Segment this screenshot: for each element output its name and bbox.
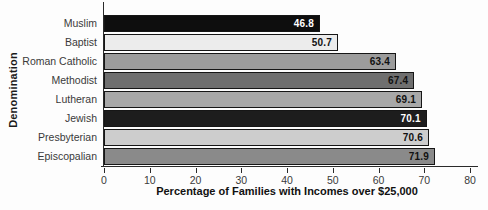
bar-row: Roman Catholic63.4 <box>104 53 470 70</box>
category-label: Roman Catholic <box>22 53 97 70</box>
bar-row: Presbyterian70.6 <box>104 129 470 146</box>
category-label: Jewish <box>65 110 97 127</box>
bar-value-label: 70.1 <box>400 113 425 124</box>
x-tick-mark <box>196 168 197 173</box>
y-axis-title: Denomination <box>7 52 19 128</box>
category-label: Lutheran <box>56 91 97 108</box>
bar: 46.8 <box>104 15 320 32</box>
x-tick-mark <box>287 168 288 173</box>
bar-row: Jewish70.1 <box>104 110 470 127</box>
category-label: Presbyterian <box>38 129 97 146</box>
x-tick-mark <box>333 168 334 173</box>
x-tick-mark <box>470 168 471 173</box>
bar-row: Baptist50.7 <box>104 34 470 51</box>
bar: 71.9 <box>104 148 435 165</box>
bar: 67.4 <box>104 72 414 89</box>
bar-row: Methodist67.4 <box>104 72 470 89</box>
x-tick-mark <box>150 168 151 173</box>
bar-value-label: 70.6 <box>403 132 428 143</box>
bar-value-label: 50.7 <box>312 37 337 48</box>
bar: 63.4 <box>104 53 396 70</box>
category-label: Episcopalian <box>37 148 97 165</box>
x-axis-title: Percentage of Families with Incomes over… <box>104 185 470 197</box>
bar-value-label: 69.1 <box>396 94 421 105</box>
bar: 70.1 <box>104 110 427 127</box>
bar: 69.1 <box>104 91 422 108</box>
bar-chart-figure: Denomination Muslim46.8Baptist50.7Roman … <box>0 0 488 210</box>
bar-value-label: 67.4 <box>388 75 413 86</box>
bar-row: Muslim46.8 <box>104 15 470 32</box>
bar-value-label: 46.8 <box>294 18 319 29</box>
plot-area: Muslim46.8Baptist50.7Roman Catholic63.4M… <box>104 14 470 166</box>
bar: 50.7 <box>104 34 338 51</box>
bar-value-label: 63.4 <box>370 56 395 67</box>
bar-value-label: 71.9 <box>409 151 434 162</box>
x-tick-mark <box>379 168 380 173</box>
bar: 70.6 <box>104 129 429 146</box>
x-tick-mark <box>241 168 242 173</box>
category-label: Muslim <box>64 15 97 32</box>
category-label: Methodist <box>51 72 97 89</box>
bar-row: Episcopalian71.9 <box>104 148 470 165</box>
category-label: Baptist <box>65 34 97 51</box>
x-tick-mark <box>104 168 105 173</box>
bar-row: Lutheran69.1 <box>104 91 470 108</box>
x-tick-mark <box>424 168 425 173</box>
